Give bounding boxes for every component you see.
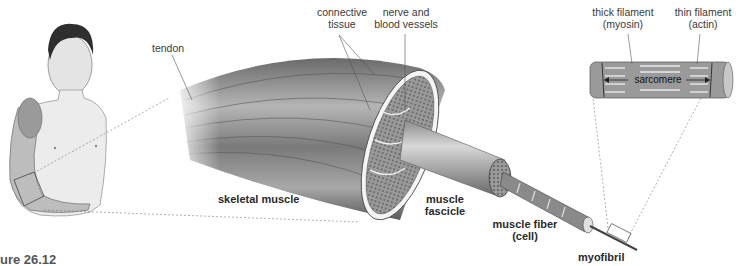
diagram-artwork: [0, 0, 736, 266]
label-muscle-fascicle: muscle fascicle: [420, 193, 470, 217]
label-thin-filament: thin filament (actin): [670, 6, 736, 30]
label-muscle-fiber: muscle fiber (cell): [490, 218, 560, 242]
figure-caption: gure 26.12: [0, 252, 56, 266]
label-skeletal-muscle: skeletal muscle: [218, 193, 299, 205]
label-connective-tissue: connective tissue: [312, 6, 372, 30]
label-myofibril: myofibril: [578, 251, 624, 263]
label-tendon: tendon: [152, 42, 184, 54]
myofibril: [590, 224, 637, 250]
label-thick-filament: thick filament (myosin): [585, 6, 661, 30]
zoom-lines-sarcomere: [593, 96, 702, 238]
label-nerve-blood-vessels: nerve and blood vessels: [372, 6, 440, 30]
label-sarcomere: sarcomere: [630, 74, 686, 86]
human-figure: [10, 24, 107, 216]
